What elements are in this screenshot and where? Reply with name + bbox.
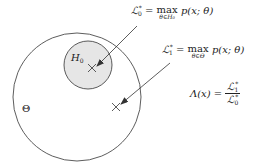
theta-label: Θ — [22, 104, 30, 114]
inner-set-h0 — [64, 41, 112, 89]
l1-equation: ℒ1* = maxθ∈Θ p(x; θ) — [162, 44, 244, 59]
h0-label: H0 — [71, 53, 84, 64]
l0-equation: ℒ0* = maxθ∈H₀ p(x; θ) — [131, 5, 213, 20]
likelihood-ratio-equation: Λ(x) = ℒ1* ℒ0* — [190, 81, 240, 106]
